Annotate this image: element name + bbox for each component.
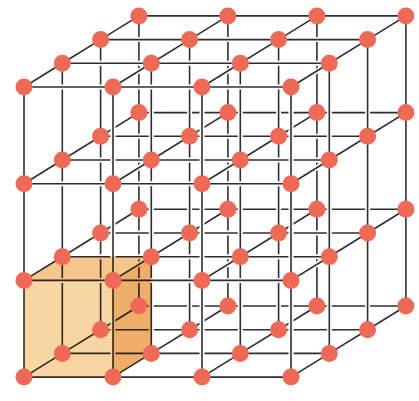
atom-icon <box>194 272 211 289</box>
atom-icon <box>92 321 109 338</box>
atom-icon <box>270 31 287 48</box>
atom-icon <box>397 201 414 218</box>
atom-icon <box>321 345 338 362</box>
atom-icon <box>283 79 300 96</box>
atom-icon <box>92 128 109 145</box>
crystal-lattice-diagram: Simple cubic crystal lattice <box>0 0 419 401</box>
atom-icon <box>181 31 198 48</box>
atom-icon <box>219 7 236 24</box>
atom-icon <box>397 7 414 24</box>
atom-icon <box>321 248 338 265</box>
atom-icon <box>130 104 147 121</box>
atom-icon <box>283 369 300 386</box>
atom-icon <box>181 225 198 242</box>
atom-icon <box>321 152 338 169</box>
atom-icon <box>130 201 147 218</box>
atom-icon <box>232 152 249 169</box>
atom-icon <box>92 225 109 242</box>
atom-icon <box>16 175 33 192</box>
atom-icon <box>283 175 300 192</box>
atom-icon <box>105 79 122 96</box>
atom-icon <box>359 31 376 48</box>
atom-icon <box>54 345 71 362</box>
atom-icon <box>105 175 122 192</box>
atom-icon <box>397 298 414 315</box>
atom-icon <box>181 321 198 338</box>
atom-icon <box>308 201 325 218</box>
atom-icon <box>54 248 71 265</box>
atom-icon <box>359 128 376 145</box>
atom-icon <box>321 55 338 72</box>
atom-icon <box>181 128 198 145</box>
atom-icon <box>194 369 211 386</box>
atom-icon <box>194 79 211 96</box>
atom-icon <box>232 345 249 362</box>
atom-icon <box>359 321 376 338</box>
atom-icon <box>130 7 147 24</box>
atom-icon <box>359 225 376 242</box>
atom-icon <box>143 345 160 362</box>
atom-icon <box>219 298 236 315</box>
atom-icon <box>105 272 122 289</box>
atom-icon <box>270 225 287 242</box>
atom-icon <box>219 201 236 218</box>
atom-icon <box>54 152 71 169</box>
atom-icon <box>54 55 71 72</box>
atom-icon <box>219 104 236 121</box>
atom-icon <box>16 272 33 289</box>
atom-icon <box>143 248 160 265</box>
atom-icon <box>194 175 211 192</box>
atom-icon <box>283 272 300 289</box>
atom-icon <box>143 55 160 72</box>
atom-icon <box>92 31 109 48</box>
atom-icon <box>308 104 325 121</box>
atom-icon <box>16 369 33 386</box>
atom-icon <box>270 321 287 338</box>
atom-icon <box>105 369 122 386</box>
atom-icon <box>143 152 160 169</box>
atom-icon <box>232 248 249 265</box>
atom-icon <box>308 298 325 315</box>
atom-icon <box>16 79 33 96</box>
atom-icon <box>397 104 414 121</box>
atom-icon <box>130 298 147 315</box>
unit-cell-highlight <box>24 257 151 377</box>
atom-icon <box>270 128 287 145</box>
atom-icon <box>232 55 249 72</box>
atom-icon <box>308 7 325 24</box>
